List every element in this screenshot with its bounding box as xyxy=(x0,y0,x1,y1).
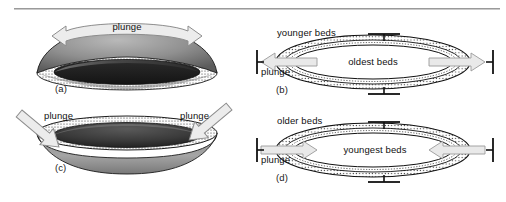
younger-beds-label: younger beds xyxy=(277,27,336,38)
panel-b: younger beds oldest beds plunge (b) xyxy=(253,10,506,102)
plunge-arrows-c xyxy=(0,102,253,202)
panel-d: older beds youngest beds plunge (d) xyxy=(253,102,506,202)
youngest-beds-label: youngest beds xyxy=(343,144,406,155)
plunge-label-c-right: plunge xyxy=(180,110,209,121)
panel-label-a: (a) xyxy=(55,83,67,94)
panel-a: plunge (a) xyxy=(0,10,253,102)
strike-dip-top-b xyxy=(368,34,400,41)
panel-label-b: (b) xyxy=(276,84,288,95)
plunge-tick-right-b xyxy=(486,50,493,74)
strike-dip-top-d xyxy=(368,122,400,129)
strike-dip-bottom-b xyxy=(368,87,400,94)
strike-dip-bottom-d xyxy=(368,175,400,182)
panel-label-c: (c) xyxy=(55,162,66,173)
oldest-beds-label: oldest beds xyxy=(348,56,398,67)
plunge-label-c-left: plunge xyxy=(44,110,73,121)
panel-c: plunge plunge (c) xyxy=(0,102,253,202)
plunge-label-d: plunge xyxy=(261,154,290,165)
plunge-label-a: plunge xyxy=(112,21,141,32)
plunge-tick-right-d xyxy=(486,138,493,162)
panel-label-d: (d) xyxy=(276,172,288,183)
plunge-label-b: plunge xyxy=(261,66,290,77)
fold-diagram-figure: plunge (a) xyxy=(0,0,506,202)
older-beds-label: older beds xyxy=(277,115,322,126)
